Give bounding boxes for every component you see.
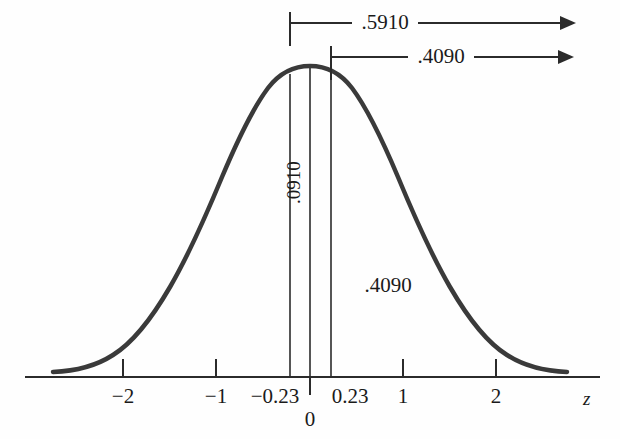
x-axis-name-label: z [583,388,590,410]
tick-label-neg1: −1 [205,384,227,409]
tick-label-pos023: 0.23 [332,384,369,409]
normal-distribution-figure: .5910 .4090 .0910 .4090 −2 −1 −0.23 0 0.… [0,0,620,439]
inner-area-0910-label: .0910 [283,161,305,204]
arrow-4090-label: .4090 [417,44,464,69]
distribution-chart-svg [0,0,620,439]
arrow-5910-label: .5910 [361,10,408,35]
tick-label-neg023: −0.23 [251,384,300,409]
arrow-5910 [290,12,576,46]
right-area-4090-label: .4090 [364,273,411,298]
tick-label-pos2: 2 [491,384,502,409]
arrow-5910-head [560,16,576,30]
tick-label-pos1: 1 [398,384,409,409]
tick-label-neg2: −2 [112,384,134,409]
tick-label-zero: 0 [305,407,316,432]
arrow-4090-head [558,50,574,64]
